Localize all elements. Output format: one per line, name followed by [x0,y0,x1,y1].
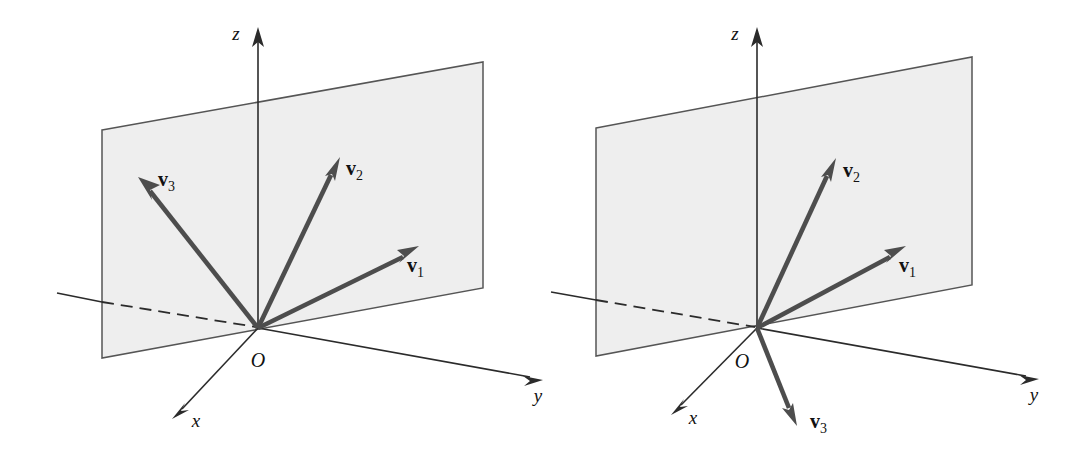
right-origin-label: O [735,350,749,372]
right-panel: z y x O v2 v1 v3 [551,23,1039,436]
left-panel: z y x O v3 v2 v1 [57,23,543,431]
right-x-axis-label: x [688,407,698,428]
right-y-axis-label: y [1028,384,1039,405]
right-z-axis-label: z [730,23,739,44]
left-x-axis-label: x [191,410,201,431]
right-y-axis-line [757,328,1026,376]
left-origin-label: O [251,349,265,371]
left-z-axis-label: z [231,23,240,44]
right-vector-v3-label: v3 [810,410,827,436]
left-negative-y-axis-solid [57,293,102,302]
right-negative-y-axis-solid [551,292,596,300]
right-vector-v3-shaft [757,328,789,408]
figure-root: z y x O v3 v2 v1 [0,0,1085,463]
left-y-axis-label: y [532,385,543,406]
vector-plane-figure: z y x O v3 v2 v1 [0,0,1085,463]
left-y-axis-line [258,328,530,377]
